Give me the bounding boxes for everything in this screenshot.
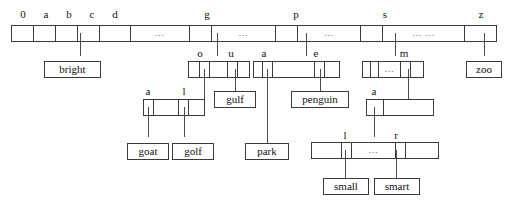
root-label-d: d <box>112 9 118 20</box>
node-p-cell-0[interactable] <box>254 62 263 77</box>
edge-root-g-to-node-g <box>217 33 218 56</box>
edge-root-z-to-zoo <box>484 33 485 56</box>
edge-smar-to-smart <box>396 150 397 178</box>
edge-gu-to-gulf <box>235 69 236 91</box>
node-s-cell-0[interactable] <box>363 62 371 77</box>
node-g-label-o: o <box>197 48 203 59</box>
leaf-park[interactable]: park <box>245 143 289 160</box>
node-s-cell-m[interactable] <box>401 62 411 77</box>
leaf-small[interactable]: small <box>323 178 369 195</box>
trie-diagram: 0 a b c d g p s z ... ... ... ... ... br… <box>0 0 508 215</box>
node-g-cell-u[interactable] <box>228 62 238 77</box>
leaf-smart[interactable]: smart <box>374 178 420 195</box>
edge-sm-to-node-sm <box>408 69 409 99</box>
edge-root-s-to-node-s <box>395 33 396 56</box>
edge-root-p-to-node-p <box>306 33 307 56</box>
node-sma: ... <box>311 142 439 159</box>
root-cell-gap-1: ... <box>131 26 190 41</box>
node-p-cell-4[interactable] <box>325 62 339 77</box>
node-g <box>188 61 250 78</box>
node-g-cell-0[interactable] <box>189 62 200 77</box>
root-cell-z[interactable] <box>465 26 496 41</box>
edge-goa-to-goat <box>148 107 149 137</box>
root-label-p: p <box>293 9 299 20</box>
leaf-goat[interactable]: goat <box>127 143 169 160</box>
root-cell-gap-2: ... <box>212 26 276 41</box>
root-label-c: c <box>90 9 95 20</box>
node-go-label-l: l <box>182 86 185 97</box>
node-s-label-m: m <box>400 48 409 59</box>
node-g-cell-2[interactable] <box>210 62 228 77</box>
root-cell-b[interactable] <box>56 26 78 41</box>
edge-pa-to-node-pa <box>267 69 268 128</box>
root-cell-gap-3: ... <box>298 26 361 41</box>
node-sma-label-l: l <box>343 130 346 141</box>
edge-go-to-node-go <box>204 69 205 99</box>
root-label-g: g <box>204 9 210 20</box>
node-sm-cell-1[interactable] <box>384 100 433 115</box>
node-s: ... <box>362 61 424 78</box>
node-sma-cell-gap: ... <box>352 143 396 158</box>
node-p-label-e: e <box>314 48 319 59</box>
node-g-cell-o[interactable] <box>200 62 210 77</box>
edge-root-b-to-bright <box>80 33 81 56</box>
root-cell-g[interactable] <box>190 26 212 41</box>
leaf-penguin[interactable]: penguin <box>291 91 349 108</box>
edge-par-to-park <box>267 128 268 143</box>
edge-smal-to-small <box>345 150 346 178</box>
edge-pe-to-penguin <box>320 69 321 91</box>
root-label-0: 0 <box>20 9 26 20</box>
root-cell-a[interactable] <box>34 26 56 41</box>
root-label-z: z <box>479 9 484 20</box>
node-go-cell-3[interactable] <box>189 100 204 115</box>
root-cell-s[interactable] <box>361 26 383 41</box>
root-label-s: s <box>383 9 387 20</box>
node-sm-label-a: a <box>372 86 377 97</box>
node-s-cell-gap: ... <box>379 62 401 77</box>
root-cell-0[interactable] <box>12 26 34 41</box>
ellipsis-3: ... <box>298 29 360 38</box>
node-sma-cell-l[interactable] <box>342 143 352 158</box>
node-sm-cell-a[interactable] <box>367 100 384 115</box>
root-cell-p[interactable] <box>276 26 298 41</box>
node-s-cell-4[interactable] <box>411 62 423 77</box>
node-sma-label-r: r <box>394 130 398 141</box>
node-p-cell-2[interactable] <box>273 62 315 77</box>
node-sma-cell-4[interactable] <box>406 143 438 158</box>
node-g-label-u: u <box>228 48 234 59</box>
ellipsis-6: ... <box>352 146 395 155</box>
node-sma-cell-0[interactable] <box>312 143 342 158</box>
ellipsis-2: ... <box>212 29 275 38</box>
node-sma-cell-r[interactable] <box>396 143 406 158</box>
leaf-bright[interactable]: bright <box>44 61 101 78</box>
root-label-a: a <box>44 9 49 20</box>
node-go-cell-1[interactable] <box>154 100 179 115</box>
node-g-cell-4[interactable] <box>238 62 249 77</box>
edge-sma-to-node-sma <box>374 107 375 137</box>
node-go <box>143 99 205 116</box>
node-p-cell-a[interactable] <box>263 62 273 77</box>
root-node: ... ... ... ... ... <box>11 25 497 42</box>
root-label-b: b <box>66 9 72 20</box>
ellipsis-5: ... <box>379 65 400 74</box>
leaf-gulf[interactable]: gulf <box>214 91 256 108</box>
ellipsis-1: ... <box>131 29 189 38</box>
root-cell-d[interactable] <box>100 26 131 41</box>
root-cell-c[interactable] <box>78 26 100 41</box>
node-p-label-a: a <box>262 48 267 59</box>
node-s-cell-1[interactable] <box>371 62 379 77</box>
leaf-golf[interactable]: golf <box>172 143 214 160</box>
leaf-zoo[interactable]: zoo <box>466 61 502 78</box>
edge-gol-to-golf <box>184 107 185 137</box>
node-sm <box>366 99 434 116</box>
node-go-label-a: a <box>146 86 151 97</box>
